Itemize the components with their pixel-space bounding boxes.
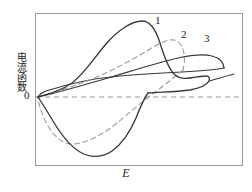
x-axis-label: E <box>0 166 252 181</box>
curve-1-label: 1 <box>155 14 161 26</box>
curve-2-label: 2 <box>181 28 187 40</box>
chart-background <box>0 0 252 192</box>
cv-chart <box>0 0 252 192</box>
origin-label: 0 <box>24 89 30 101</box>
curve-3-label: 3 <box>204 32 210 44</box>
y-axis-label: 电流函数 <box>10 52 26 92</box>
